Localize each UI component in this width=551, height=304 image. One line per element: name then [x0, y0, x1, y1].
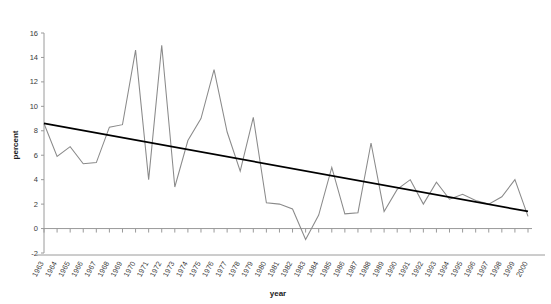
y-tick-label: 2: [34, 200, 38, 209]
y-tick-label: 4: [34, 175, 38, 184]
y-tick-label: 16: [30, 29, 38, 38]
y-tick-label: 14: [30, 53, 38, 62]
y-tick-label: 12: [30, 77, 38, 86]
y-tick-label: 6: [34, 151, 38, 160]
line-chart: -20246810121416 196319641965196619671968…: [0, 0, 551, 304]
y-tick-label: 8: [34, 126, 38, 135]
chart-container: -20246810121416 196319641965196619671968…: [0, 0, 551, 304]
x-axis-title: year: [270, 289, 286, 298]
y-tick-label: 10: [30, 102, 38, 111]
y-tick-label: 0: [34, 224, 38, 233]
y-tick-label: -2: [31, 249, 38, 258]
y-axis-title: percent: [11, 130, 20, 159]
chart-background: [0, 0, 551, 304]
